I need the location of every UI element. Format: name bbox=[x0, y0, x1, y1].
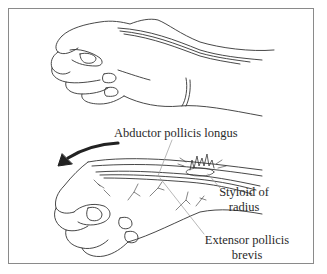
label-extensor-pollicis-brevis: Extensor pollicis brevis bbox=[188, 233, 306, 263]
label-extensor-line2: brevis bbox=[188, 248, 306, 263]
label-styloid-of-radius: Styloid of radius bbox=[205, 185, 283, 215]
leader-extensor bbox=[160, 178, 204, 234]
leader-abductor bbox=[158, 140, 172, 176]
label-styloid-line2: radius bbox=[205, 200, 283, 215]
label-abductor-pollicis-longus: Abductor pollicis longus bbox=[114, 126, 238, 141]
label-styloid-line1: Styloid of bbox=[205, 185, 283, 200]
label-extensor-line1: Extensor pollicis bbox=[188, 233, 306, 248]
top-hand-illustration bbox=[51, 19, 274, 116]
